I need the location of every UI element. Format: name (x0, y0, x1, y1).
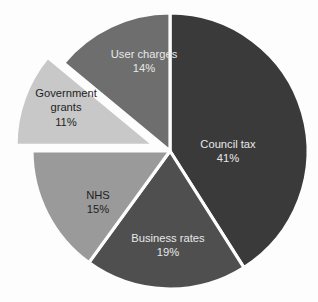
pie-chart-figure: Council tax41%Business rates19%NHS15%Gov… (0, 0, 318, 302)
pie-chart-canvas: Council tax41%Business rates19%NHS15%Gov… (0, 0, 318, 302)
